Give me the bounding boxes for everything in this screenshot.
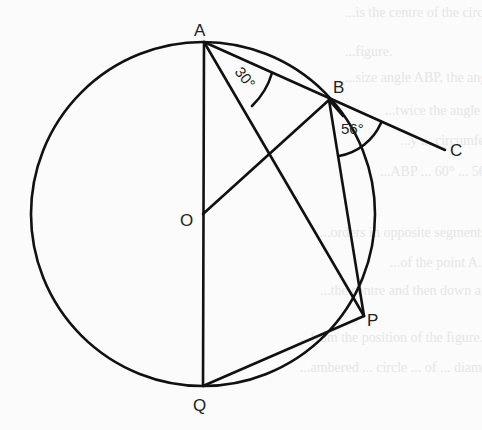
angle-label-A: 30° (232, 63, 259, 91)
point-label-P: P (367, 311, 378, 330)
radius-OB (203, 100, 329, 214)
point-label-Q: Q (193, 396, 206, 415)
point-label-O: O (180, 211, 193, 230)
line-ABC (204, 42, 445, 150)
circle-geometry-figure: A B C O P Q 30° 56° (0, 0, 482, 430)
point-label-A: A (194, 21, 206, 40)
chord-QP (203, 316, 364, 386)
point-label-B: B (333, 78, 344, 97)
point-label-C: C (450, 141, 462, 160)
angle-label-B: 56° (341, 120, 364, 137)
